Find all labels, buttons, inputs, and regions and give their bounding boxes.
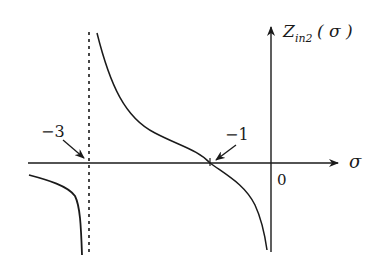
y-axis-label: Z in2 ( σ ) (282, 21, 353, 45)
curve-left-branch (29, 175, 82, 255)
pointer-arrow-minus-3 (63, 140, 84, 158)
pointer-arrow-minus-1 (216, 145, 236, 160)
annotation-minus-3: −3 (41, 122, 65, 141)
y-axis-label-argument: ( σ ) (317, 21, 353, 41)
annotation-minus-1: −1 (225, 125, 249, 144)
origin-label: 0 (277, 171, 287, 189)
impedance-plot: −3 −1 0 σ Z in2 ( σ ) (0, 0, 379, 274)
y-axis-label-subscript: in2 (295, 32, 313, 45)
x-axis-label: σ (349, 151, 362, 172)
y-axis-label-main: Z (282, 21, 296, 41)
